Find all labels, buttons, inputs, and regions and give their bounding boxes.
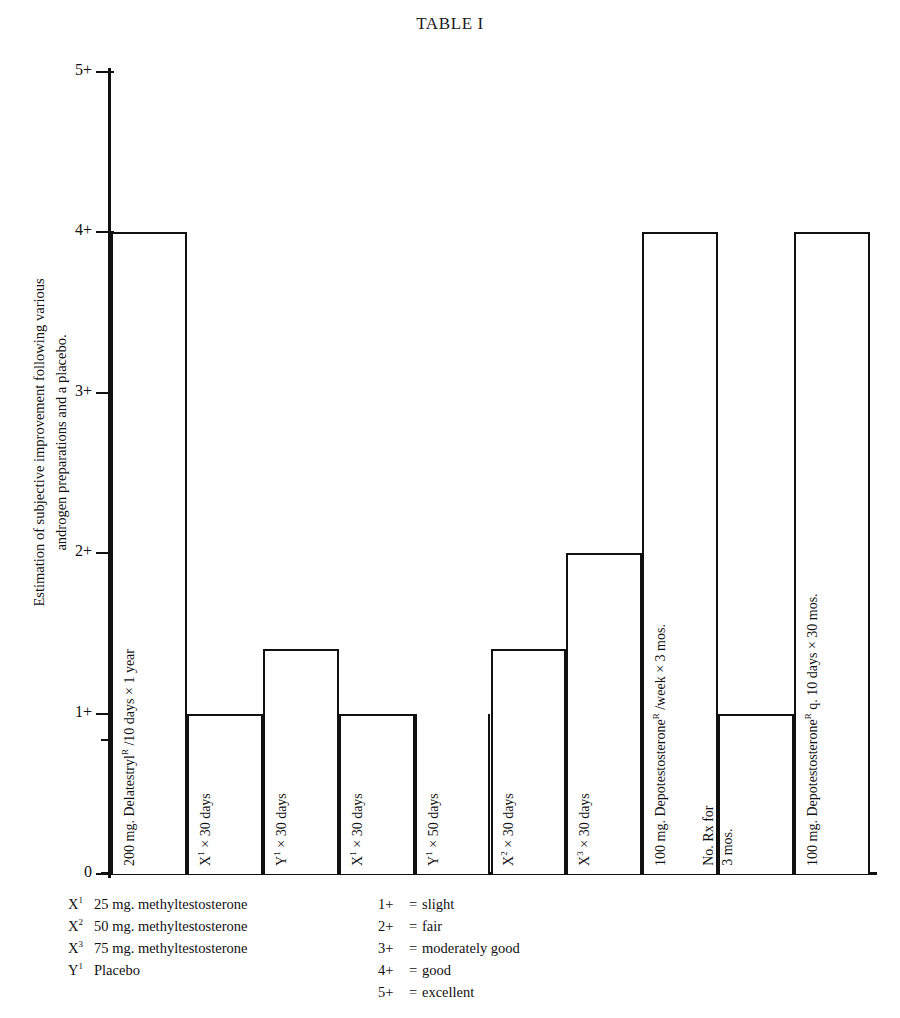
- legend-treatment-codes: X125 mg. methyltestosteroneX250 mg. meth…: [68, 893, 247, 981]
- bar-label: 100 mg. DepotestosteroneR q. 10 days × 3…: [804, 593, 823, 866]
- legend-key: 4+: [378, 959, 404, 981]
- legend-equals: =: [404, 893, 422, 915]
- y-axis-tick-label: 1+: [48, 704, 92, 720]
- superscript: 1: [272, 851, 282, 856]
- legend-key: X2: [68, 915, 94, 937]
- legend-key: 2+: [378, 915, 404, 937]
- bar-label-line: X1 × 30 days: [197, 793, 216, 866]
- legend-text: moderately good: [422, 940, 520, 956]
- page-title: TABLE I: [0, 14, 900, 34]
- legend-item: 1+=slight: [378, 893, 520, 915]
- bar-label-line: 3 mos.: [719, 806, 738, 866]
- bar-label-line: 100 mg. DepotestosteroneR q. 10 days × 3…: [804, 593, 823, 866]
- legend-item: X375 mg. methyltestosterone: [68, 937, 247, 959]
- bar-y1-30-days[interactable]: Y1 × 30 days: [263, 649, 339, 874]
- superscript: 3: [576, 851, 586, 856]
- bar-label: X1 × 30 days: [349, 793, 368, 866]
- bar-label: X1 × 30 days: [197, 793, 216, 866]
- bar-label: X3 × 30 days: [576, 793, 595, 866]
- superscript: 1: [196, 851, 206, 856]
- legend-text: slight: [422, 896, 454, 912]
- bar-label-line: Y1 × 50 days: [425, 793, 444, 866]
- legend-item: X250 mg. methyltestosterone: [68, 915, 247, 937]
- y-axis-tick-5plus: [96, 71, 114, 73]
- legend-rating-scale: 1+=slight2+=fair3+=moderately good4+=goo…: [378, 893, 520, 1003]
- legend-equals: =: [404, 915, 422, 937]
- legend-key: 3+: [378, 937, 404, 959]
- bar-x2-30-days[interactable]: X2 × 30 days: [491, 649, 567, 874]
- bar-label-line: Y1 × 30 days: [273, 793, 292, 866]
- bar-x1-30-days-a[interactable]: X1 × 30 days: [187, 714, 263, 874]
- superscript: 1: [348, 851, 358, 856]
- bar-label-line: X3 × 30 days: [576, 793, 595, 866]
- bar-y1-50-days[interactable]: Y1 × 50 days: [415, 714, 491, 874]
- superscript: R: [120, 749, 130, 755]
- legend-item: X125 mg. methyltestosterone: [68, 893, 247, 915]
- bar-depotestosterone-10-days[interactable]: 100 mg. DepotestosteroneR q. 10 days × 3…: [794, 232, 870, 874]
- bar-label-line: 100 mg. DepotestosteroneR /week × 3 mos.: [652, 624, 671, 866]
- legend-item: Y1Placebo: [68, 959, 247, 981]
- y-axis-stub-tick: [101, 739, 111, 741]
- superscript: 2: [500, 851, 510, 856]
- y-axis-caption-line: androgen preparations and a placebo.: [50, 217, 72, 667]
- bar-label: 200 mg. DelatestrylR /10 days × 1 year: [121, 649, 140, 866]
- superscript: 1: [78, 895, 83, 905]
- bar-label-line: No. Rx for: [700, 806, 719, 866]
- superscript: 1: [78, 961, 83, 971]
- y-axis-caption: Estimation of subjective improvement fol…: [28, 217, 73, 667]
- legend-equals: =: [404, 959, 422, 981]
- legend-text: excellent: [422, 984, 474, 1000]
- bar-label: Y1 × 50 days: [425, 793, 444, 866]
- bar-x3-30-days[interactable]: X3 × 30 days: [566, 553, 642, 874]
- legend-text: Placebo: [94, 962, 140, 978]
- superscript: 1: [424, 851, 434, 856]
- legend-item: 5+=excellent: [378, 981, 520, 1003]
- bar-no-rx[interactable]: No. Rx for3 mos.: [718, 714, 794, 874]
- superscript: R: [652, 713, 662, 719]
- legend-text: 75 mg. methyltestosterone: [94, 940, 247, 956]
- bar-label: No. Rx for3 mos.: [700, 806, 738, 866]
- legend-text: 50 mg. methyltestosterone: [94, 918, 247, 934]
- legend-item: 3+=moderately good: [378, 937, 520, 959]
- y-axis-tick-label: 5+: [48, 62, 92, 78]
- legend-equals: =: [404, 981, 422, 1003]
- legend-key: X3: [68, 937, 94, 959]
- bar-label: 100 mg. DepotestosteroneR /week × 3 mos.: [652, 624, 671, 866]
- bar-label: Y1 × 30 days: [273, 793, 292, 866]
- legend-item: 4+=good: [378, 959, 520, 981]
- superscript: R: [803, 713, 813, 719]
- bar-label-line: 200 mg. DelatestrylR /10 days × 1 year: [121, 649, 140, 866]
- legend-key: Y1: [68, 959, 94, 981]
- bar-delatestryl[interactable]: 200 mg. DelatestrylR /10 days × 1 year: [111, 232, 187, 874]
- legend-item: 2+=fair: [378, 915, 520, 937]
- bar-label: X2 × 30 days: [501, 793, 520, 866]
- superscript: 2: [78, 917, 83, 927]
- legend-equals: =: [404, 937, 422, 959]
- bar-x1-30-days-b[interactable]: X1 × 30 days: [339, 714, 415, 874]
- y-axis-caption-line: Estimation of subjective improvement fol…: [28, 217, 50, 667]
- legend-text: fair: [422, 918, 442, 934]
- legend-key: 5+: [378, 981, 404, 1003]
- legend-key: X1: [68, 893, 94, 915]
- legend-text: 25 mg. methyltestosterone: [94, 896, 247, 912]
- superscript: 3: [78, 939, 83, 949]
- bar-depotestosterone-week[interactable]: 100 mg. DepotestosteroneR /week × 3 mos.: [642, 232, 718, 874]
- bar-label-line: X2 × 30 days: [501, 793, 520, 866]
- legend-key: 1+: [378, 893, 404, 915]
- bar-label-line: X1 × 30 days: [349, 793, 368, 866]
- y-axis-tick-label: 0: [48, 864, 92, 880]
- legend-text: good: [422, 962, 451, 978]
